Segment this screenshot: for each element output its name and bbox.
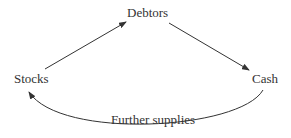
- edge-label-further-supplies: Further supplies: [111, 113, 195, 127]
- node-cash: Cash: [252, 72, 278, 86]
- node-debtors: Debtors: [127, 6, 168, 20]
- arrow-stocks-to-debtors: [45, 22, 126, 69]
- node-stocks: Stocks: [14, 72, 49, 86]
- arrow-debtors-to-cash: [169, 23, 249, 70]
